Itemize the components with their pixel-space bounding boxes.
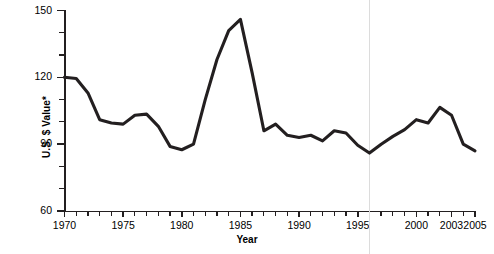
x-axis-title: Year (0, 234, 494, 245)
data-line (65, 19, 476, 153)
chart-figure: U.S. $ Value* 6090120150 197019751980198… (0, 0, 494, 254)
data-series-svg (0, 0, 494, 254)
